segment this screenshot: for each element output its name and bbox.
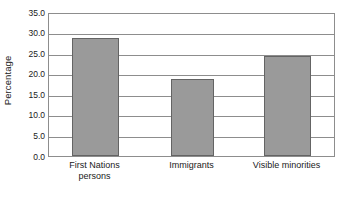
gridline xyxy=(49,34,334,35)
x-axis-tick-label-line: persons xyxy=(40,171,150,182)
y-axis-tick-label: 10.0 xyxy=(15,111,45,120)
bar xyxy=(72,38,119,156)
plot-area xyxy=(48,13,335,157)
y-axis-tick-label: 5.0 xyxy=(15,132,45,141)
y-axis-title-text: Percentage xyxy=(3,55,14,105)
y-axis-tick-label: 35.0 xyxy=(15,9,45,18)
x-axis-tick-label-line: Immigrants xyxy=(169,160,214,170)
y-axis-tick-label: 20.0 xyxy=(15,70,45,79)
bar-chart-figure: Percentage 35.030.025.020.015.010.05.00.… xyxy=(0,0,338,197)
x-axis-tick-label-line: First Nations xyxy=(69,160,120,170)
x-axis-tick-label: Immigrants xyxy=(137,160,247,171)
bar xyxy=(264,56,311,156)
x-axis-tick-label-line: Visible minorities xyxy=(253,160,320,170)
y-axis-tick-label: 15.0 xyxy=(15,91,45,100)
y-axis-tick-labels: 35.030.025.020.015.010.05.00.0 xyxy=(14,13,45,157)
y-axis-tick-label: 25.0 xyxy=(15,50,45,59)
x-axis-tick-label: First Nationspersons xyxy=(40,160,150,182)
y-axis-tick-label: 30.0 xyxy=(15,29,45,38)
x-axis-tick-labels: First NationspersonsImmigrantsVisible mi… xyxy=(48,160,335,196)
bar xyxy=(171,79,214,156)
x-axis-tick-label: Visible minorities xyxy=(232,160,338,171)
